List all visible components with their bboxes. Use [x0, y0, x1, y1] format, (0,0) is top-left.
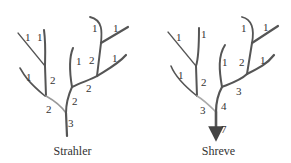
- strahler-caption: Strahler: [0, 144, 145, 159]
- shreve-caption: Shreve: [146, 144, 291, 159]
- strahler-stream-network: [0, 0, 145, 163]
- stream-order-label: 1: [113, 23, 119, 34]
- stream-order-label: 2: [239, 57, 245, 68]
- shreve-diagram: 1112314321117 Shreve: [146, 0, 291, 163]
- stream-order-label: 1: [260, 55, 266, 66]
- stream-order-label: 2: [201, 77, 207, 88]
- stream-order-label: 1: [26, 72, 32, 83]
- stream-order-label: 2: [72, 96, 78, 107]
- stream-order-label: 2: [89, 55, 95, 66]
- stream-order-label: 1: [37, 32, 43, 43]
- shreve-stream-network: [146, 0, 291, 163]
- stream-order-label: 1: [178, 70, 184, 81]
- stream-order-label: 1: [25, 32, 31, 43]
- stream-order-label: 4: [221, 101, 227, 112]
- stream-order-label: 1: [112, 53, 118, 64]
- stream-order-label: 3: [200, 105, 206, 116]
- stream-order-label: 1: [222, 57, 228, 68]
- stream-order-label: 1: [92, 23, 98, 34]
- stream-order-label: 1: [241, 23, 247, 34]
- stream-order-label: 3: [236, 86, 242, 97]
- stream-order-label: 1: [201, 29, 207, 40]
- stream-order-label: 3: [68, 118, 74, 129]
- stream-order-label: 1: [263, 22, 269, 33]
- strahler-diagram: 1112212221113 Strahler: [0, 0, 145, 163]
- stream-order-label: 2: [46, 104, 52, 115]
- stream-order-label: 1: [76, 56, 82, 67]
- stream-order-label: 7: [221, 124, 227, 135]
- stream-order-label: 2: [86, 83, 92, 94]
- stream-order-label: 2: [50, 75, 56, 86]
- stream-order-label: 1: [176, 32, 182, 43]
